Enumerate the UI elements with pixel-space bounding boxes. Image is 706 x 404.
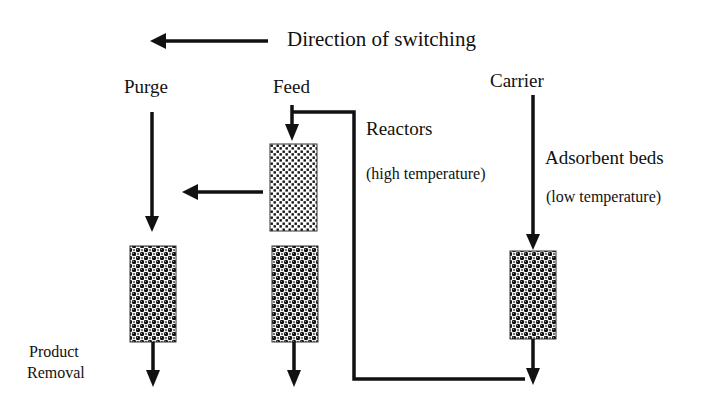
purge-arrow-icon (145, 112, 159, 232)
direction-label: Direction of switching (287, 27, 476, 52)
product-removal-label-line2: Removal (27, 364, 85, 382)
reactor (270, 144, 317, 231)
adsorbent-note: (low temperature) (546, 188, 661, 206)
adsorbent-bed-middle (272, 246, 318, 342)
adsorbent-bed-left (130, 246, 176, 342)
feed-label: Feed (273, 76, 310, 98)
reactors-note: (high temperature) (366, 165, 486, 183)
carrier-arrow-icon (526, 95, 540, 250)
adsorbent-title: Adsorbent beds (545, 147, 664, 169)
right-bed-exit-arrow-icon (526, 339, 540, 385)
product-removal-label-line1: Product (29, 343, 79, 361)
reactors-title: Reactors (366, 118, 432, 140)
purge-label: Purge (124, 76, 168, 98)
product-removal-arrow-icon (146, 342, 160, 387)
reactor-exit-arrow-icon (182, 184, 263, 200)
adsorbent-bed-right (510, 251, 556, 339)
recycle-loop-line (292, 112, 525, 379)
carrier-label: Carrier (490, 70, 544, 92)
direction-arrow-icon (150, 33, 268, 49)
middle-bed-exit-arrow-icon (287, 342, 301, 387)
